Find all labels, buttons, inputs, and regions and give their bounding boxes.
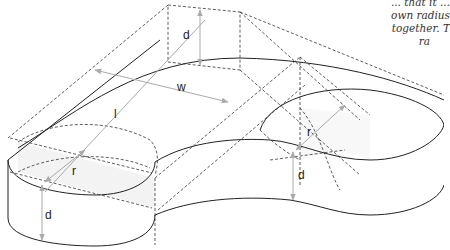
label-l: l (114, 107, 117, 121)
dimension-arrows (42, 10, 345, 240)
label-r-right: r (307, 125, 311, 139)
label-d-right: d (298, 168, 305, 182)
label-d-left: d (45, 208, 52, 222)
solid-outline (8, 40, 444, 246)
label-d-top: d (183, 28, 190, 42)
label-w: w (177, 80, 186, 94)
label-r-left: r (72, 164, 76, 178)
hidden-lines (8, 5, 444, 245)
l-arrow (45, 20, 205, 192)
w-arrow (95, 70, 228, 102)
